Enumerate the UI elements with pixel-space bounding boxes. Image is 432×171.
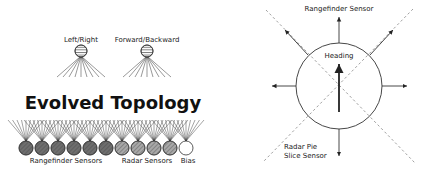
rangefinder-arrow-front-left	[285, 30, 308, 55]
output-node	[141, 45, 153, 57]
input-connection	[186, 120, 204, 141]
output-connection	[135, 56, 147, 77]
input-node	[163, 141, 177, 155]
input-node	[51, 141, 65, 155]
input-node	[67, 141, 81, 155]
input-node	[147, 141, 161, 155]
heading-label: Heading	[324, 52, 353, 60]
input-connection	[186, 120, 195, 141]
input-node	[99, 141, 113, 155]
input-node	[115, 141, 129, 155]
radar-sensors-label: Radar Sensors	[122, 157, 173, 165]
radar-pie-label-line2: Slice Sensor	[284, 152, 327, 160]
output-connection	[123, 56, 147, 77]
output-connection	[81, 56, 93, 77]
input-node	[83, 141, 97, 155]
sensor-layout-panel: Rangefinder Sensor Heading Radar Pie Sli…	[264, 5, 415, 163]
rangefinder-arrow-front-right	[370, 30, 393, 55]
output-label: Left/Right	[64, 36, 98, 44]
evolved-topology-panel: Left/RightForward/Backward Evolved Topol…	[8, 36, 204, 165]
rangefinder-sensor-label: Rangefinder Sensor	[305, 5, 374, 13]
input-nodes	[19, 141, 193, 155]
output-connection	[63, 56, 81, 77]
output-node	[75, 45, 87, 57]
diagram-canvas: Left/RightForward/Backward Evolved Topol…	[0, 0, 432, 171]
input-connection	[17, 120, 26, 141]
radar-pie-label-line1: Radar Pie	[284, 143, 317, 151]
output-connection	[147, 56, 165, 77]
topology-title: Evolved Topology	[25, 92, 202, 113]
output-connection	[81, 56, 99, 77]
output-connection	[147, 56, 159, 77]
output-nodes: Left/RightForward/Backward	[64, 36, 179, 57]
rangefinder-sensors-label: Rangefinder Sensors	[30, 157, 103, 165]
radar-slice-boundary-1	[266, 10, 415, 163]
output-connection	[57, 56, 81, 77]
output-connection	[147, 56, 171, 77]
output-connection	[129, 56, 147, 77]
output-connection	[81, 56, 105, 77]
input-node	[19, 141, 33, 155]
input-connection	[8, 120, 26, 141]
input-node	[35, 141, 49, 155]
input-node	[179, 141, 193, 155]
output-label: Forward/Backward	[115, 36, 180, 44]
bias-label: Bias	[181, 157, 196, 165]
input-node	[131, 141, 145, 155]
output-connection	[69, 56, 81, 77]
